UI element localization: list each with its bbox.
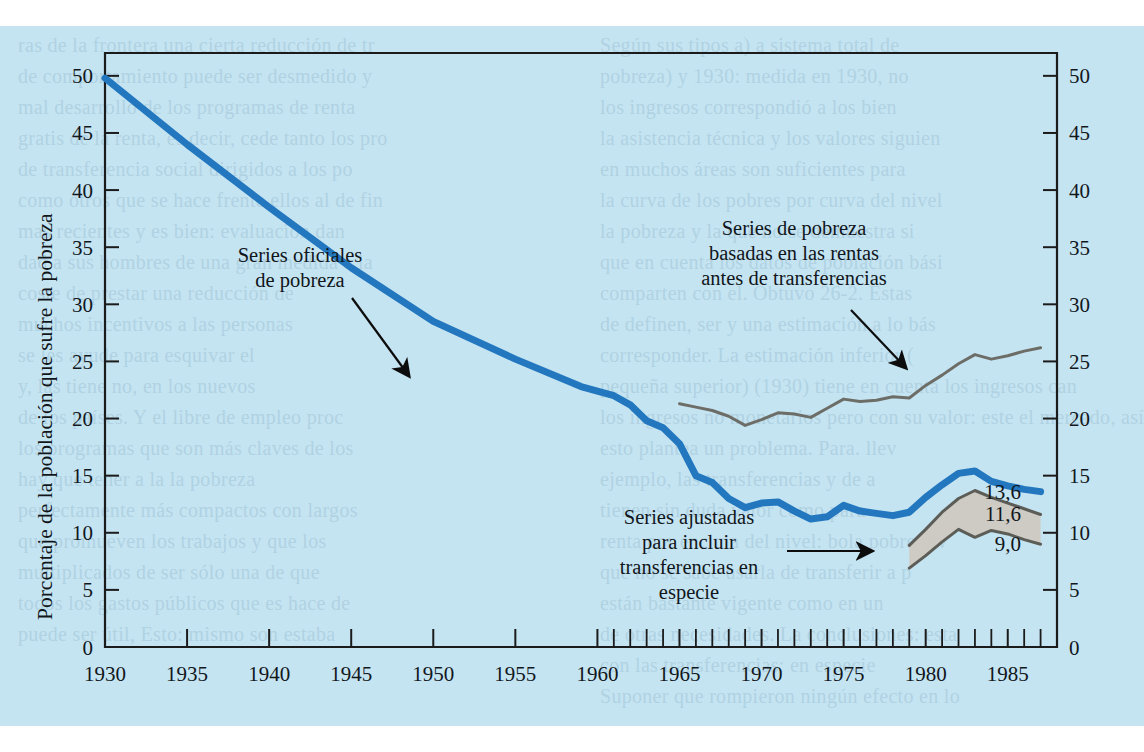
y-tick-label-left: 40 (72, 179, 93, 203)
y-tick-label-left: 30 (72, 293, 93, 317)
y-tick-label-right: 15 (1069, 464, 1090, 488)
page-margin-bottom (0, 726, 1144, 752)
y-tick-label-left: 45 (72, 121, 93, 145)
y-tick-label-left: 35 (72, 236, 93, 260)
annotation-line: basadas en las rentas (709, 242, 879, 264)
x-axis: 1930193519401945195019551960196519701975… (84, 629, 1057, 686)
y-tick-label-right: 30 (1069, 293, 1090, 317)
y-tick-label-right: 35 (1069, 236, 1090, 260)
page-margin-top (0, 0, 1144, 26)
annotation-line: Series de pobreza (722, 217, 867, 240)
chart-annotations: Series oficialesde pobrezaSeries de pobr… (238, 217, 906, 604)
y-tick-label-right: 45 (1069, 121, 1090, 145)
annotation-line: de pobreza (255, 269, 344, 292)
y-tick-label-left: 20 (72, 407, 93, 431)
x-tick-label: 1980 (905, 662, 947, 686)
annotation-line: transferencias en (620, 556, 758, 578)
annotation-text: Series oficialesde pobreza (238, 244, 363, 292)
y-tick-label-left: 50 (72, 64, 93, 88)
x-tick-label: 1930 (84, 662, 126, 686)
y-tick-label-right: 20 (1069, 407, 1090, 431)
y-tick-label-right: 40 (1069, 179, 1090, 203)
annotation-in-kind: Series ajustadaspara incluirtransferenci… (620, 506, 872, 604)
y-tick-label-left: 15 (72, 464, 93, 488)
x-tick-label: 1970 (741, 662, 783, 686)
annotation-line: Series ajustadas (624, 506, 754, 529)
y-tick-label-right: 5 (1069, 578, 1080, 602)
series-end-label: 13,6 (984, 480, 1021, 504)
series-end-labels: 13,611,69,0 (984, 480, 1021, 557)
annotation-line: antes de transferencias (701, 267, 887, 289)
series-end-label: 9,0 (995, 532, 1021, 556)
annotation-official: Series oficialesde pobreza (238, 244, 409, 376)
series-official (105, 78, 1041, 519)
x-tick-label: 1950 (412, 662, 454, 686)
annotation-line: Series oficiales (238, 244, 363, 266)
y-axis-left: 05101520253035404550 (72, 64, 119, 659)
poverty-chart: 05101520253035404550 0510152025303540455… (0, 0, 1144, 752)
annotation-line: para incluir (642, 531, 736, 554)
y-tick-label-left: 5 (83, 578, 94, 602)
y-tick-label-right: 0 (1069, 636, 1080, 660)
annotation-pre-transfer: Series de pobrezabasadas en las rentasan… (701, 217, 906, 368)
x-tick-label: 1945 (330, 662, 372, 686)
x-tick-label: 1960 (576, 662, 618, 686)
annotation-line: especie (659, 581, 719, 604)
annotation-text: Series ajustadaspara incluirtransferenci… (620, 506, 758, 604)
y-tick-label-right: 10 (1069, 521, 1090, 545)
y-axis-title-text: Porcentaje de la población que sufre la … (33, 213, 57, 620)
x-tick-label: 1975 (823, 662, 865, 686)
figure-page: ras de la frontera una cierta reducción … (0, 0, 1144, 752)
x-tick-label: 1965 (658, 662, 700, 686)
annotation-text: Series de pobrezabasadas en las rentasan… (701, 217, 887, 289)
y-tick-label-left: 0 (83, 636, 94, 660)
annotation-leader (352, 298, 409, 376)
annotation-leader (851, 310, 906, 368)
chart-svg: 05101520253035404550 0510152025303540455… (0, 0, 1144, 752)
y-tick-label-left: 25 (72, 350, 93, 374)
x-tick-label: 1940 (248, 662, 290, 686)
x-tick-label: 1935 (166, 662, 208, 686)
series-pre-transfer (679, 348, 1040, 426)
y-tick-label-right: 25 (1069, 350, 1090, 374)
x-tick-label: 1955 (494, 662, 536, 686)
y-axis-right: 05101520253035404550 (1043, 64, 1090, 659)
y-axis-title: Porcentaje de la población que sufre la … (33, 213, 57, 620)
y-tick-label-left: 10 (72, 521, 93, 545)
x-tick-label: 1985 (987, 662, 1029, 686)
series-end-label: 11,6 (985, 502, 1021, 526)
y-tick-label-right: 50 (1069, 64, 1090, 88)
